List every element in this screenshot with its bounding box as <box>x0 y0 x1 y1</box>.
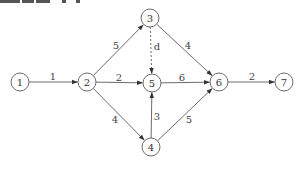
node-label: 4 <box>148 142 154 153</box>
edge-4-5 <box>151 92 152 138</box>
node-5: 5 <box>143 74 161 92</box>
node-4: 4 <box>142 138 160 156</box>
node-label: 1 <box>17 77 23 88</box>
edge-label-1-2: 1 <box>50 71 56 82</box>
node-3: 3 <box>141 9 159 27</box>
edge-label-2-5: 2 <box>116 72 122 83</box>
node-1: 1 <box>11 73 29 91</box>
edge-label-3-5: d <box>154 41 161 52</box>
edge-label-2-4: 4 <box>112 114 118 125</box>
node-2: 2 <box>78 73 96 91</box>
edge-label-4-5: 3 <box>154 111 160 122</box>
node-label: 6 <box>216 77 222 88</box>
edge-3-5 <box>150 27 151 74</box>
node-label: 7 <box>281 77 287 88</box>
node-label: 2 <box>84 77 90 88</box>
node-7: 7 <box>275 73 293 91</box>
edge-label-5-6: 6 <box>179 72 185 83</box>
edge-label-4-6: 5 <box>186 114 192 125</box>
edge-5-6 <box>161 82 210 83</box>
edge-label-3-6: 4 <box>185 40 191 51</box>
edge-2-4 <box>93 88 144 140</box>
node-label: 3 <box>147 13 153 24</box>
edge-label-6-7: 2 <box>249 71 255 82</box>
edge-label-2-3: 5 <box>113 40 119 51</box>
node-label: 5 <box>149 78 155 89</box>
network-diagram: 1524d46352 1234567 <box>0 0 303 172</box>
node-6: 6 <box>210 73 228 91</box>
edge-4-6 <box>158 89 213 141</box>
